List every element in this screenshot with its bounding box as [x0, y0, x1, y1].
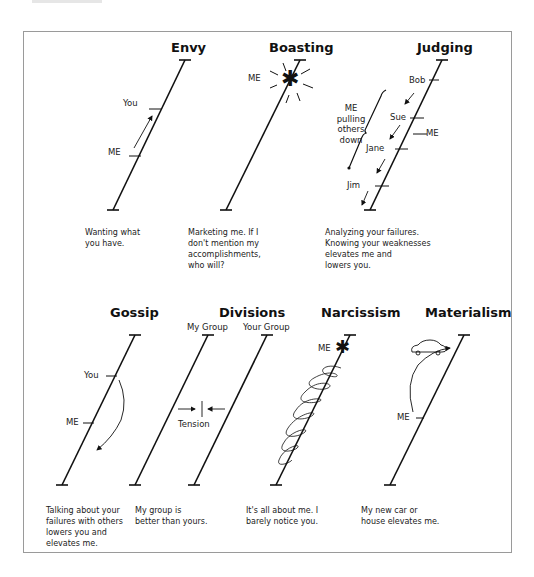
narcissism-ladder	[270, 335, 356, 485]
panel-title-boasting: Boasting	[269, 40, 334, 55]
label-me: ME	[66, 417, 79, 428]
label-me: ME	[426, 128, 439, 139]
materialism-ladder	[384, 335, 470, 485]
divisions-ladders	[129, 335, 273, 485]
caption-materialism: My new car or house elevates me.	[361, 505, 439, 527]
caption-boasting: Marketing me. If I don't mention my acco…	[188, 227, 261, 271]
label-me-pulling-others-down: ME pulling others down	[331, 103, 371, 145]
label-you: You	[123, 98, 138, 109]
gossip-ladder	[56, 335, 141, 485]
label-your-group: Your Group	[243, 322, 290, 333]
caption-divisions: My group is better than yours.	[135, 505, 207, 527]
label-my-group: My Group	[187, 322, 228, 333]
tension-arrows	[178, 401, 225, 417]
car-icon	[412, 340, 446, 355]
caption-envy: Wanting what you have.	[85, 227, 140, 249]
label-jim: Jim	[347, 180, 360, 191]
asterisk-icon: ✱	[281, 68, 299, 90]
panel-title-envy: Envy	[171, 40, 206, 55]
label-me: ME	[318, 343, 331, 354]
envy-ladder	[107, 60, 191, 210]
asterisk-icon: ✱	[335, 338, 350, 356]
panel-title-judging: Judging	[417, 40, 473, 55]
label-you: You	[84, 370, 99, 381]
panel-title-materialism: Materialism	[425, 305, 512, 320]
panel-title-divisions: Divisions	[219, 305, 285, 320]
label-me: ME	[248, 73, 261, 84]
caption-judging: Analyzing your failures. Knowing your we…	[325, 227, 431, 271]
label-me: ME	[397, 412, 410, 423]
caption-gossip: Talking about your failures with others …	[46, 505, 123, 549]
diagram-artwork	[0, 0, 534, 577]
panel-title-gossip: Gossip	[110, 305, 159, 320]
label-sue: Sue	[390, 112, 406, 123]
label-bob: Bob	[409, 75, 425, 86]
label-me: ME	[108, 147, 121, 158]
panel-title-narcissism: Narcissism	[321, 305, 400, 320]
caption-narcissism: It's all about me. I barely notice you.	[246, 505, 318, 527]
label-tension: Tension	[178, 419, 210, 430]
